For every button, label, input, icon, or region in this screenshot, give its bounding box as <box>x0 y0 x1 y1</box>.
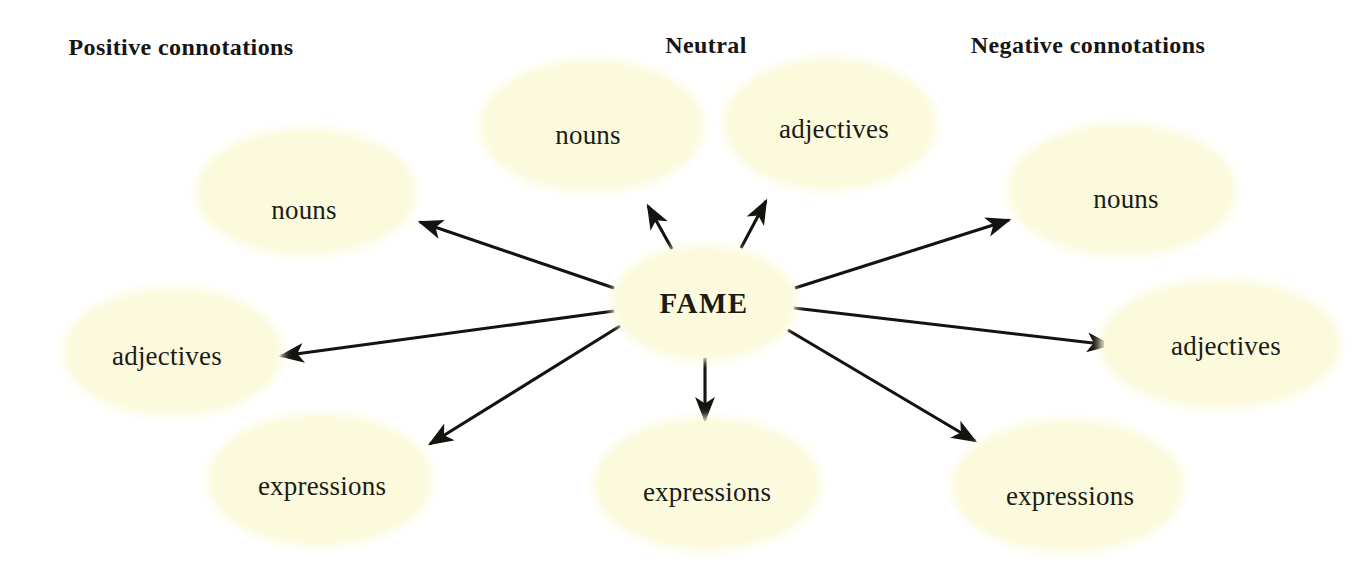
heading-positive-connotations: Positive connotations <box>68 34 293 61</box>
node-label: adjectives <box>779 114 889 145</box>
heading-neutral: Neutral <box>665 32 746 59</box>
node-negative-expressions[interactable]: expressions <box>956 424 1180 548</box>
node-neutral-nouns[interactable]: nouns <box>484 64 700 188</box>
node-neutral-adjectives[interactable]: adjectives <box>728 62 932 186</box>
node-label: nouns <box>1093 184 1159 215</box>
node-negative-adjectives[interactable]: adjectives <box>1104 284 1336 404</box>
arrow-neu-nouns <box>648 206 672 249</box>
node-positive-nouns[interactable]: nouns <box>200 133 412 251</box>
diagram-canvas: Positive connotations Neutral Negative c… <box>0 0 1362 570</box>
node-center-fame[interactable]: FAME <box>616 250 792 356</box>
arrow-pos-nouns <box>420 222 614 288</box>
heading-negative-connotations: Negative connotations <box>971 32 1205 59</box>
node-center-label: FAME <box>660 287 749 320</box>
arrow-neg-adjectives <box>794 308 1110 345</box>
node-label: nouns <box>555 120 621 151</box>
node-label: adjectives <box>112 341 222 372</box>
node-positive-adjectives[interactable]: adjectives <box>68 292 278 412</box>
node-negative-nouns[interactable]: nouns <box>1012 128 1232 252</box>
arrow-neu-adjectives <box>741 201 766 248</box>
node-label: expressions <box>1006 481 1134 512</box>
node-positive-expressions[interactable]: expressions <box>212 418 428 542</box>
arrow-neg-expressions <box>788 330 975 441</box>
arrow-pos-adjectives <box>281 311 614 356</box>
node-neutral-expressions[interactable]: expressions <box>598 422 816 546</box>
arrow-pos-expressions <box>430 326 620 444</box>
node-label: adjectives <box>1171 331 1281 362</box>
word-web-diagram: Positive connotations Neutral Negative c… <box>0 0 1362 570</box>
node-label: expressions <box>643 477 771 508</box>
arrow-neg-nouns <box>795 220 1009 288</box>
node-label: nouns <box>271 195 337 226</box>
node-label: expressions <box>258 471 386 502</box>
